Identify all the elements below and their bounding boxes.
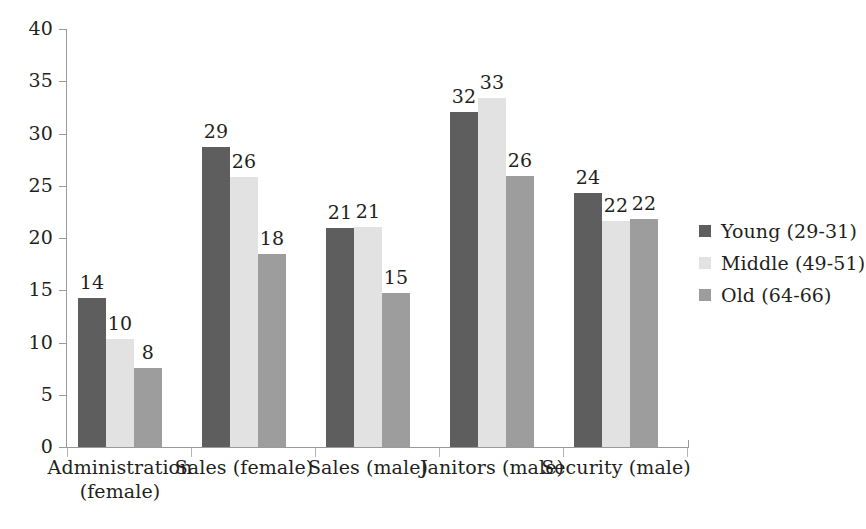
y-axis-tick-value: 10 [7, 333, 53, 352]
legend-item[interactable]: Young (29-31) [699, 215, 859, 247]
y-axis-tick [59, 134, 66, 135]
y-axis-tick [59, 447, 66, 448]
bar[interactable] [630, 219, 658, 447]
bar[interactable] [574, 193, 602, 447]
legend-swatch-middle [699, 257, 711, 269]
x-axis-line [66, 447, 689, 448]
bar-value-label: 29 [193, 122, 239, 141]
x-axis-category-label-line: Security (male) [531, 455, 701, 479]
x-axis-category-label: Security (male) [531, 455, 701, 479]
y-axis-tick-label: 15 [0, 280, 53, 299]
legend-swatch-young [699, 225, 711, 237]
bar-value-label: 21 [345, 202, 391, 221]
bar[interactable] [258, 254, 286, 447]
bar[interactable] [354, 227, 382, 447]
bar[interactable] [478, 98, 506, 447]
y-axis-tick-label: 5 [0, 385, 53, 404]
bar-group: 292618 [202, 29, 286, 447]
bar[interactable] [134, 368, 162, 447]
bar-value-label: 26 [497, 151, 543, 170]
y-axis-tick-label: 40 [0, 19, 53, 38]
bar-value-label: 15 [373, 268, 419, 287]
x-axis-end-tick [688, 440, 689, 448]
y-axis-tick [59, 343, 66, 344]
y-axis-tick-value: 25 [7, 176, 53, 195]
bar-group: 14108 [78, 29, 162, 447]
y-axis-tick [59, 395, 66, 396]
bar-value-label: 8 [125, 343, 171, 362]
y-axis-tick-value: 5 [7, 385, 53, 404]
y-axis-tick-label: 0 [0, 437, 53, 456]
legend-swatch-old [699, 289, 711, 301]
bar-group: 242222 [574, 29, 658, 447]
legend-item[interactable]: Old (64-66) [699, 279, 859, 311]
y-axis-tick-label: 25 [0, 176, 53, 195]
y-axis-tick-value: 35 [7, 71, 53, 90]
bar-value-label: 24 [565, 168, 611, 187]
y-axis-tick [59, 290, 66, 291]
y-axis-tick [59, 81, 66, 82]
y-axis-tick [59, 29, 66, 30]
bar-group: 323326 [450, 29, 534, 447]
y-axis-tick-label: 30 [0, 124, 53, 143]
bar[interactable] [326, 228, 354, 447]
chart-legend: Young (29-31)Middle (49-51)Old (64-66) [699, 215, 859, 311]
y-axis-tick-value: 30 [7, 124, 53, 143]
legend-label: Middle (49-51) [721, 254, 865, 273]
y-axis-tick [59, 186, 66, 187]
y-axis-tick-label: 35 [0, 71, 53, 90]
legend-item[interactable]: Middle (49-51) [699, 247, 859, 279]
y-axis-tick-value: 15 [7, 280, 53, 299]
y-axis-tick-value: 20 [7, 228, 53, 247]
bar-value-label: 33 [469, 73, 515, 92]
plot-area: 14108292618212115323326242222 [66, 29, 688, 447]
bar-value-label: 10 [97, 314, 143, 333]
y-axis-tick [59, 238, 66, 239]
bar-value-label: 18 [249, 229, 295, 248]
y-axis-tick-label: 10 [0, 333, 53, 352]
y-axis-tick-value: 0 [7, 437, 53, 456]
y-axis-tick-label: 20 [0, 228, 53, 247]
bar[interactable] [602, 221, 630, 447]
bar-value-label: 26 [221, 152, 267, 171]
x-axis-category-label-line: (female) [35, 479, 205, 503]
bar-chart: 0510152025303540 14108292618212115323326… [0, 0, 866, 529]
bar[interactable] [506, 176, 534, 447]
y-axis-tick-value: 40 [7, 19, 53, 38]
page-text-bleed [430, 0, 790, 6]
bar[interactable] [450, 112, 478, 447]
bar[interactable] [230, 177, 258, 447]
bar[interactable] [382, 293, 410, 447]
legend-label: Old (64-66) [721, 286, 832, 305]
legend-label: Young (29-31) [721, 222, 857, 241]
bar-group: 212115 [326, 29, 410, 447]
bar-value-label: 22 [621, 194, 667, 213]
bar-value-label: 14 [69, 273, 115, 292]
bar[interactable] [202, 147, 230, 447]
